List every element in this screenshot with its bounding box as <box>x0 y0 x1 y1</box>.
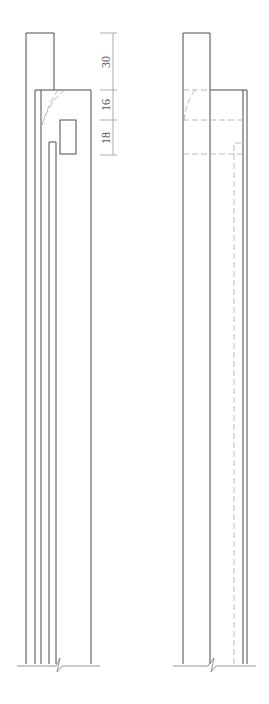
technical-drawing: 30 16 18 <box>0 0 269 704</box>
main-body-outline <box>35 90 91 664</box>
hidden-slot <box>234 143 243 664</box>
left-elevation-view: 30 16 18 <box>17 33 117 672</box>
hidden-curve-2 <box>42 90 58 125</box>
dimension-18: 18 <box>99 132 113 144</box>
hidden-curve-right <box>184 90 195 120</box>
dimension-30: 30 <box>99 56 113 68</box>
post-outline <box>183 33 210 664</box>
body-outline <box>210 90 247 664</box>
ground-line-right <box>173 658 256 672</box>
opening-rectangle <box>60 120 76 154</box>
dimension-chain: 30 16 18 <box>99 33 117 155</box>
top-post-outline <box>26 33 54 664</box>
dimension-16: 16 <box>99 99 113 111</box>
right-elevation-view <box>173 33 256 672</box>
ground-line-left <box>17 658 100 672</box>
slot-outline <box>49 142 56 664</box>
